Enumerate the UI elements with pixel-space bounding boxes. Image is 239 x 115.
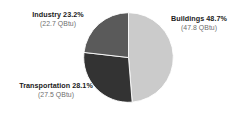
pie-label-transportation: Transportation 28.1% (27.5 QBtu) bbox=[8, 82, 104, 99]
pie-label-industry-value: (22.7 QBtu) bbox=[18, 20, 98, 28]
pie-label-buildings-title: Buildings 48.7% bbox=[161, 15, 237, 23]
pie-chart-figure: Industry 23.2% (22.7 QBtu) Buildings 48.… bbox=[0, 0, 239, 115]
pie-label-transportation-title: Transportation 28.1% bbox=[8, 82, 104, 90]
pie-label-industry: Industry 23.2% (22.7 QBtu) bbox=[18, 11, 98, 28]
pie-label-buildings-value: (47.8 QBtu) bbox=[161, 24, 237, 32]
pie-label-industry-title: Industry 23.2% bbox=[18, 11, 98, 19]
pie-label-transportation-value: (27.5 QBtu) bbox=[8, 91, 104, 99]
pie-label-buildings: Buildings 48.7% (47.8 QBtu) bbox=[161, 15, 237, 32]
